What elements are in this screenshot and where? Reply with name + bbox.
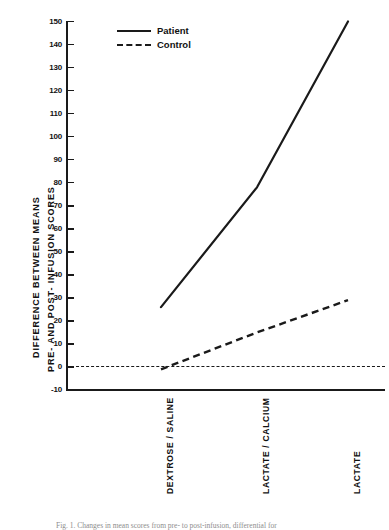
figure-container: 1501401301201101009080706050403020100-10… — [0, 0, 389, 530]
legend-swatch-solid-icon — [117, 30, 151, 32]
y-tick-mark — [68, 297, 74, 299]
y-tick-mark — [68, 136, 74, 138]
zero-reference-line — [66, 366, 385, 367]
y-tick-mark — [68, 67, 74, 69]
y-tick-mark — [68, 113, 74, 115]
y-tick-mark — [68, 159, 74, 161]
y-tick-mark — [68, 343, 74, 345]
y-tick-mark — [68, 274, 74, 276]
legend: Patient Control — [117, 24, 247, 52]
y-tick-label: 90 — [54, 156, 63, 164]
y-tick-mark — [68, 44, 74, 46]
y-tick-mark — [68, 205, 74, 207]
y-tick-label: 140 — [49, 41, 62, 49]
y-tick-label: 110 — [50, 110, 62, 118]
legend-item-patient: Patient — [117, 24, 247, 38]
x-axis-line — [66, 389, 385, 391]
y-tick-label: 100 — [49, 133, 62, 141]
y-axis-title-line-1: DIFFERENCE BETWEEN MEANS — [31, 196, 41, 358]
x-axis-label-2: LACTATE — [352, 451, 362, 494]
y-tick-mark — [68, 90, 74, 92]
y-tick-label: 150 — [49, 18, 62, 26]
x-axis-label-1: LACTATE / CALCIUM — [261, 397, 271, 494]
y-tick-mark — [68, 389, 74, 391]
y-tick-mark — [68, 320, 74, 322]
legend-item-control: Control — [117, 38, 247, 52]
figure-caption: Fig. 1. Changes in mean scores from pre-… — [56, 521, 356, 530]
legend-label-control: Control — [157, 38, 191, 51]
legend-label-patient: Patient — [157, 24, 189, 37]
y-tick-mark — [68, 228, 74, 230]
y-tick-label: 120 — [49, 87, 62, 95]
legend-swatch-dashed-icon — [117, 44, 151, 46]
y-tick-mark — [68, 21, 74, 23]
plot-area — [0, 0, 389, 530]
series-line-control — [161, 300, 348, 369]
y-tick-label: 0 — [58, 363, 62, 371]
y-tick-label: -10 — [51, 386, 62, 394]
y-tick-mark — [68, 182, 74, 184]
y-tick-mark — [68, 251, 74, 253]
y-tick-label: 130 — [49, 64, 62, 72]
series-line-patient — [161, 22, 348, 308]
x-axis-label-0: DEXTROSE / SALINE — [165, 397, 175, 494]
y-axis-title-line-2: PRE- AND POST- INFUSION SCORES — [46, 186, 56, 372]
